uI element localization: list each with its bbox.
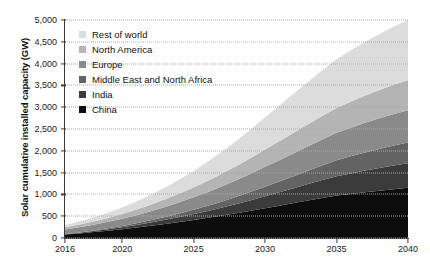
- legend-swatch-icon: [79, 76, 86, 83]
- y-tick-label: 5,000: [13, 15, 57, 25]
- legend-label: Middle East and North Africa: [92, 75, 212, 85]
- y-tick-mark: [61, 128, 66, 129]
- legend-label: North America: [92, 45, 152, 55]
- x-tick-mark: [64, 238, 65, 243]
- x-tick-mark: [122, 238, 123, 243]
- y-tick-mark: [61, 41, 66, 42]
- legend-label: Rest of world: [92, 30, 147, 40]
- x-tick-label: 2030: [255, 244, 275, 254]
- y-tick-mark: [61, 194, 66, 195]
- x-tick-mark: [336, 238, 337, 243]
- y-tick-label: 3,500: [13, 80, 57, 90]
- legend-label: India: [92, 90, 113, 100]
- gridline: [65, 172, 408, 173]
- legend-swatch-icon: [79, 31, 86, 38]
- x-tick-label: 2040: [398, 244, 418, 254]
- x-tick-label: 2016: [55, 244, 75, 254]
- y-tick-label: 2,000: [13, 146, 57, 156]
- x-tick-label: 2020: [112, 244, 132, 254]
- x-tick-mark: [407, 238, 408, 243]
- y-tick-mark: [61, 19, 66, 20]
- legend-item[interactable]: North America: [79, 42, 212, 57]
- y-tick-label: 1,500: [13, 168, 57, 178]
- legend-item[interactable]: Europe: [79, 57, 212, 72]
- legend-swatch-icon: [79, 106, 86, 113]
- y-tick-label: 1,000: [13, 189, 57, 199]
- y-tick-mark: [61, 150, 66, 151]
- legend-item[interactable]: Middle East and North Africa: [79, 72, 212, 87]
- y-tick-mark: [61, 216, 66, 217]
- x-tick-label: 2025: [184, 244, 204, 254]
- y-tick-mark: [61, 63, 66, 64]
- gridline: [65, 150, 408, 151]
- x-tick-mark: [193, 238, 194, 243]
- y-tick-label: 4,000: [13, 59, 57, 69]
- y-tick-label: 500: [13, 211, 57, 221]
- gridline: [65, 238, 408, 239]
- y-tick-label: 2,500: [13, 124, 57, 134]
- y-tick-mark: [61, 172, 66, 173]
- gridline: [65, 129, 408, 130]
- gridline: [65, 20, 408, 21]
- legend-swatch-icon: [79, 46, 86, 53]
- stacked-area-chart: Solar cumulative installed capacity (GW)…: [0, 0, 430, 271]
- gridline: [65, 216, 408, 217]
- legend-swatch-icon: [79, 61, 86, 68]
- y-tick-label: 4,500: [13, 37, 57, 47]
- y-tick-label: 3,000: [13, 102, 57, 112]
- gridline: [65, 194, 408, 195]
- legend-label: Europe: [92, 60, 123, 70]
- legend-label: China: [92, 105, 117, 115]
- legend-item[interactable]: China: [79, 102, 212, 117]
- x-tick-label: 2035: [327, 244, 347, 254]
- y-tick-mark: [61, 107, 66, 108]
- y-tick-mark: [61, 85, 66, 86]
- y-tick-label: 0: [13, 233, 57, 243]
- legend-item[interactable]: India: [79, 87, 212, 102]
- legend-swatch-icon: [79, 91, 86, 98]
- chart-legend: Rest of worldNorth AmericaEuropeMiddle E…: [79, 27, 212, 117]
- x-tick-mark: [264, 238, 265, 243]
- legend-item[interactable]: Rest of world: [79, 27, 212, 42]
